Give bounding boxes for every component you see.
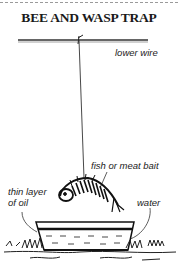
water-tray	[36, 222, 134, 250]
label-lower-wire: lower wire	[115, 47, 158, 58]
label-bait: fish or meat bait	[91, 160, 159, 171]
label-oil-line2: of oil	[8, 197, 28, 208]
trap-illustration	[0, 0, 178, 264]
hanging-string	[79, 40, 84, 178]
lower-wire	[18, 35, 148, 44]
label-oil-line1: thin layer	[8, 186, 47, 197]
fish-bait-icon	[59, 174, 124, 212]
label-water: water	[137, 197, 160, 208]
